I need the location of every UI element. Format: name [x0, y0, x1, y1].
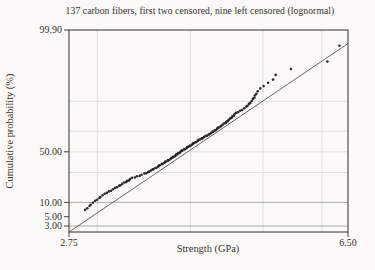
data-point [140, 173, 143, 176]
data-point [92, 201, 95, 204]
data-point [241, 109, 244, 112]
probability-plot-canvas: 99.9050.0010.005.003.002.756.50 137 carb… [0, 0, 375, 270]
y-tick-label-3.00: 3.00 [45, 220, 63, 231]
data-point [274, 74, 277, 77]
data-point [101, 194, 104, 197]
data-point [106, 192, 109, 195]
data-point [259, 87, 262, 90]
tick-marks-group [64, 30, 348, 237]
x-axis-label: Strength (GPa) [177, 243, 240, 255]
tick-labels-group: 99.9050.0010.005.003.002.756.50 [40, 24, 357, 248]
data-point [253, 96, 256, 99]
data-point [255, 93, 258, 96]
data-point [86, 207, 89, 210]
data-points-group [84, 44, 341, 211]
data-point [99, 196, 102, 199]
data-point [237, 111, 240, 114]
probability-plot-figure: 99.9050.0010.005.003.002.756.50 137 carb… [0, 0, 375, 270]
data-point [96, 198, 99, 201]
chart-title: 137 carbon fibers, first two censored, n… [66, 5, 335, 17]
data-point [267, 81, 270, 84]
data-point [262, 85, 265, 88]
data-point [256, 90, 259, 93]
data-point [89, 204, 92, 207]
data-point [84, 209, 87, 212]
lognormal-fit-line [69, 44, 348, 233]
data-point [272, 78, 275, 81]
data-point [326, 60, 329, 63]
x-tick-label-2.75: 2.75 [60, 237, 78, 248]
fit-line-group [69, 44, 348, 233]
data-point [136, 175, 139, 178]
data-point [338, 44, 341, 47]
x-tick-label-6.50: 6.50 [339, 237, 357, 248]
gridlines-group [69, 30, 348, 232]
data-point [243, 107, 246, 110]
data-point [112, 188, 115, 191]
y-tick-label-50.00: 50.00 [40, 146, 63, 157]
data-point [290, 68, 293, 71]
data-point [131, 177, 134, 180]
y-tick-label-10.00: 10.00 [40, 197, 63, 208]
y-tick-label-99.90: 99.90 [40, 24, 63, 35]
y-axis-label: Cumulative probability (%) [4, 74, 16, 189]
